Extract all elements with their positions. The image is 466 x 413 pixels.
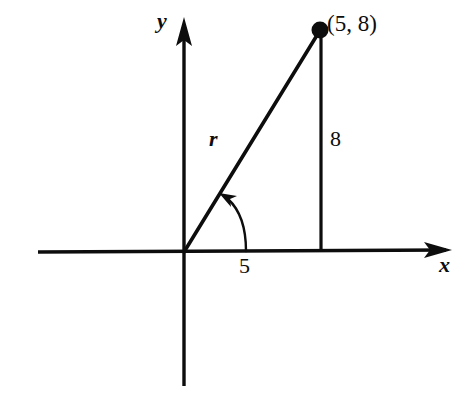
vertical-leg-length-label: 8 (330, 128, 341, 150)
y-axis-label: y (157, 10, 167, 32)
point-coordinate-label: (5, 8) (327, 12, 377, 35)
angle-arc (228, 199, 246, 251)
x-axis-label: x (439, 254, 450, 276)
coordinate-figure: y x (5, 8) r 8 5 (0, 0, 466, 413)
hypotenuse-segment (184, 32, 319, 252)
filled-dot-icon (312, 22, 329, 39)
horizontal-leg-length-label: 5 (239, 255, 250, 277)
hypotenuse-length-label: r (209, 128, 218, 150)
figure-drawing (0, 0, 466, 413)
x-axis-line (38, 250, 446, 252)
